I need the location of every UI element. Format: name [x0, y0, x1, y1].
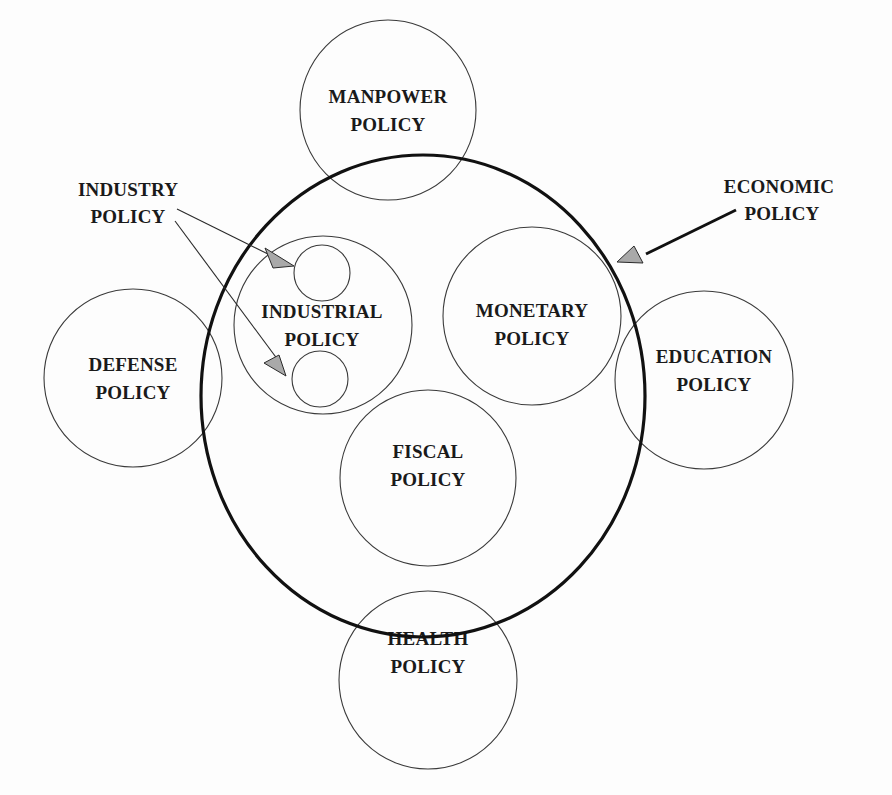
fiscal-label-line2: POLICY [390, 469, 465, 490]
monetary-label-line2: POLICY [494, 328, 569, 349]
economic-policy-circle [201, 155, 645, 637]
economic-callout-line1: ECONOMIC [724, 176, 834, 197]
node-industrial: INDUSTRIAL POLICY [234, 236, 412, 414]
industrial-label-line1: INDUSTRIAL [261, 301, 382, 322]
node-manpower: MANPOWER POLICY [300, 20, 476, 200]
industrial-label-line2: POLICY [284, 329, 359, 350]
node-health: HEALTH POLICY [339, 591, 517, 769]
defense-label-line1: DEFENSE [88, 354, 177, 375]
callout-industry-policy: INDUSTRY POLICY [78, 179, 294, 376]
industrial-circle [234, 236, 412, 414]
health-circle [339, 591, 517, 769]
arrowhead-icon [264, 355, 286, 376]
industry-callout-line1: INDUSTRY [78, 179, 178, 200]
diagram-canvas: MANPOWER POLICY DEFENSE POLICY EDUCATION… [0, 0, 892, 795]
industry-arrow-bottom-line [175, 221, 278, 360]
manpower-label-line1: MANPOWER [329, 86, 448, 107]
economic-callout-line2: POLICY [744, 203, 819, 224]
policy-diagram: MANPOWER POLICY DEFENSE POLICY EDUCATION… [0, 0, 892, 795]
education-label-line1: EDUCATION [656, 346, 773, 367]
economic-arrow-line [646, 210, 736, 254]
node-fiscal: FISCAL POLICY [340, 390, 516, 566]
defense-label-line2: POLICY [95, 382, 170, 403]
education-label-line2: POLICY [676, 374, 751, 395]
defense-circle [44, 289, 222, 467]
industry-subcircle-bottom [292, 351, 348, 407]
industry-subcircle-top [294, 245, 350, 301]
callout-economic-policy: ECONOMIC POLICY [617, 176, 834, 263]
manpower-circle [300, 20, 476, 200]
fiscal-label-line1: FISCAL [393, 441, 464, 462]
manpower-label-line2: POLICY [350, 114, 425, 135]
node-defense: DEFENSE POLICY [44, 289, 222, 467]
node-monetary: MONETARY POLICY [443, 227, 621, 405]
arrowhead-icon [617, 246, 643, 263]
health-label-line2: POLICY [390, 656, 465, 677]
industry-callout-line2: POLICY [90, 206, 165, 227]
arrowhead-icon [265, 248, 294, 268]
industry-arrow-top-line [177, 209, 272, 256]
monetary-label-line1: MONETARY [476, 300, 589, 321]
